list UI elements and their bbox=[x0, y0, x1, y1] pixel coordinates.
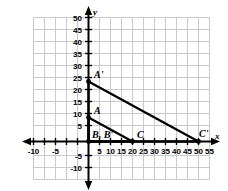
xtick-label-20: 20 bbox=[128, 147, 137, 156]
xtick-label-neg10: -10 bbox=[28, 147, 40, 156]
ytick-label-45: 45 bbox=[73, 26, 82, 35]
x-axis-label: x bbox=[214, 131, 220, 141]
xtick-label-35: 35 bbox=[161, 147, 170, 156]
vertex-c-prime bbox=[196, 139, 201, 144]
xtick-label-45: 45 bbox=[183, 147, 192, 156]
xtick-label-30: 30 bbox=[150, 147, 159, 156]
ytick-label-35: 35 bbox=[73, 50, 82, 59]
xtick-label-5: 5 bbox=[97, 147, 102, 156]
ytick-label-40: 40 bbox=[73, 38, 82, 47]
coordinate-plane-graph: 50 45 40 35 30 25 20 15 10 5 -5 -10 -10 … bbox=[0, 0, 228, 191]
xtick-label-10: 10 bbox=[106, 147, 115, 156]
xtick-label-25: 25 bbox=[139, 147, 148, 156]
xtick-label-neg5: -5 bbox=[52, 147, 60, 156]
vertex-b bbox=[86, 139, 91, 144]
vertex-label-c-prime: C' bbox=[199, 128, 209, 139]
xtick-label-50: 50 bbox=[194, 147, 203, 156]
ytick-label-30: 30 bbox=[73, 62, 82, 71]
vertex-c bbox=[130, 139, 135, 144]
ytick-label-neg10: -10 bbox=[70, 164, 82, 173]
ytick-label-neg5: -5 bbox=[75, 152, 83, 161]
vertex-a-prime bbox=[86, 79, 91, 84]
vertex-label-a-prime: A' bbox=[93, 69, 104, 80]
vertex-label-a: A bbox=[93, 105, 101, 116]
ytick-label-25: 25 bbox=[73, 74, 82, 83]
vertex-a bbox=[86, 115, 91, 120]
ytick-label-20: 20 bbox=[73, 86, 82, 95]
ytick-label-15: 15 bbox=[73, 98, 82, 107]
vertex-label-c: C bbox=[137, 129, 144, 140]
xtick-label-55: 55 bbox=[205, 147, 214, 156]
ytick-label-10: 10 bbox=[73, 110, 82, 119]
ytick-label-5: 5 bbox=[78, 122, 83, 131]
vertex-label-b-b-prime: B, B' bbox=[91, 129, 113, 140]
ytick-label-50: 50 bbox=[73, 14, 82, 23]
xtick-label-40: 40 bbox=[172, 147, 181, 156]
figure-container: 19. bbox=[0, 0, 228, 191]
xtick-label-15: 15 bbox=[117, 147, 126, 156]
